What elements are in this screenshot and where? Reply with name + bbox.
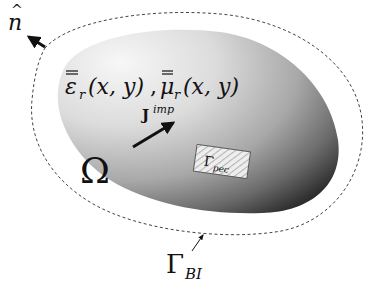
normal-vector-arrow [29,37,45,47]
permeability-symbol: μ [160,74,174,99]
domain-omega-label: Ω [80,150,110,191]
current-symbol: J [140,106,149,124]
boundary-integral-label: Γ BI [166,249,203,283]
material-parameters-label: ε r (x, y) , μ r (x, y) [65,71,239,102]
normal-hat-accent: ^ [11,2,23,18]
diagram-canvas: n ^ ε r (x, y) , μ r (x, y) Ω J imp Γ pe… [0,0,377,287]
permittivity-subscript: r [79,87,86,102]
current-superscript: imp [153,103,174,116]
normal-vector-label: n ^ [8,2,23,35]
permittivity-symbol: ε [65,74,77,99]
material-separator: , [150,74,157,99]
permittivity-args: (x, y) [88,74,144,99]
boundary-subscript: BI [184,265,203,283]
boundary-pointer-arrow [192,235,203,251]
boundary-symbol: Γ [166,249,184,279]
permeability-args: (x, y) [183,74,239,99]
permeability-subscript: r [174,87,181,102]
